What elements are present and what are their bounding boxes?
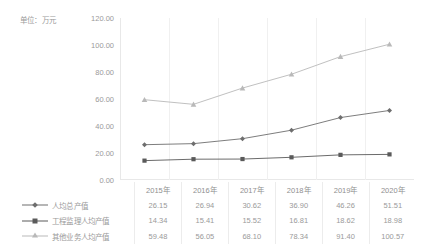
- table-column-header: 2019年: [322, 182, 369, 198]
- table-column-header: 2017年: [228, 182, 275, 198]
- y-axis-tick-label: 20.00: [95, 149, 114, 158]
- table-cell-value: 100.57: [369, 229, 416, 245]
- table-row: 人均总产值26.1526.9430.6236.9046.2651.51: [8, 198, 416, 214]
- series-line: [145, 154, 390, 160]
- unit-caption: 单位：万元: [20, 14, 56, 25]
- series-marker: [289, 155, 293, 159]
- table-cell-value: 14.34: [135, 213, 182, 229]
- table-header-row: 2015年2016年2017年2018年2019年2020年: [8, 182, 416, 198]
- table-cell-value: 78.34: [275, 229, 322, 245]
- table-cell-value: 26.94: [181, 198, 228, 214]
- legend-marker-icon: [22, 201, 48, 209]
- y-axis-tick-label: 100.00: [91, 41, 114, 50]
- table-cell-value: 68.10: [228, 229, 275, 245]
- data-table: 2015年2016年2017年2018年2019年2020年人均总产值26.15…: [8, 182, 416, 244]
- series-marker: [338, 115, 343, 120]
- series-marker: [387, 108, 392, 113]
- table-cell-value: 15.41: [181, 213, 228, 229]
- table-cell-value: 51.51: [369, 198, 416, 214]
- y-axis-tick-label: 80.00: [95, 68, 114, 77]
- plot-area: [120, 18, 414, 180]
- legend-label: 其他业务人均产值: [52, 233, 110, 242]
- table-cell-value: 16.81: [275, 213, 322, 229]
- table-cell-value: 18.98: [369, 213, 416, 229]
- series-marker: [191, 141, 196, 146]
- series-marker: [387, 41, 393, 46]
- series-marker: [289, 71, 295, 76]
- series-marker: [142, 159, 146, 163]
- table-column-header: 2015年: [135, 182, 182, 198]
- table-corner-cell: [8, 182, 135, 198]
- series-marker: [191, 157, 195, 161]
- y-axis-tick-label: 60.00: [95, 95, 114, 104]
- table-row: 工程监理人均产值14.3415.4115.5216.8118.6218.98: [8, 213, 416, 229]
- y-axis-tick-label: 40.00: [95, 122, 114, 131]
- series-marker: [240, 157, 244, 161]
- table-cell-value: 91.40: [322, 229, 369, 245]
- legend-entry[interactable]: 工程监理人均产值: [8, 213, 135, 229]
- legend-marker-icon: [22, 232, 48, 240]
- legend-entry[interactable]: 人均总产值: [8, 198, 135, 214]
- table-cell-value: 59.48: [135, 229, 182, 245]
- table-cell-value: 26.15: [135, 198, 182, 214]
- table-column-header: 2018年: [275, 182, 322, 198]
- table-column-header: 2020年: [369, 182, 416, 198]
- series-marker: [289, 128, 294, 133]
- legend-label: 工程监理人均产值: [52, 217, 110, 226]
- table-cell-value: 18.62: [322, 213, 369, 229]
- y-axis: 0.0020.0040.0060.0080.00100.00120.00: [70, 18, 118, 180]
- series-marker: [387, 152, 391, 156]
- chart-container: 单位：万元 0.0020.0040.0060.0080.00100.00120.…: [0, 0, 424, 248]
- table-row: 其他业务人均产值59.4856.0568.1078.3491.40100.57: [8, 229, 416, 245]
- table-column-header: 2016年: [181, 182, 228, 198]
- legend-entry[interactable]: 其他业务人均产值: [8, 229, 135, 245]
- series-marker: [142, 142, 147, 147]
- series-marker: [240, 136, 245, 141]
- table-cell-value: 56.05: [181, 229, 228, 245]
- table-cell-value: 15.52: [228, 213, 275, 229]
- table-cell-value: 46.26: [322, 198, 369, 214]
- legend-marker-icon: [22, 217, 48, 225]
- series-line: [145, 110, 390, 144]
- series-marker: [338, 153, 342, 157]
- table-cell-value: 30.62: [228, 198, 275, 214]
- table-cell-value: 36.90: [275, 198, 322, 214]
- series-line: [145, 44, 390, 104]
- y-axis-tick-label: 120.00: [91, 14, 114, 23]
- series-lines: [120, 18, 414, 180]
- legend-label: 人均总产值: [52, 202, 88, 211]
